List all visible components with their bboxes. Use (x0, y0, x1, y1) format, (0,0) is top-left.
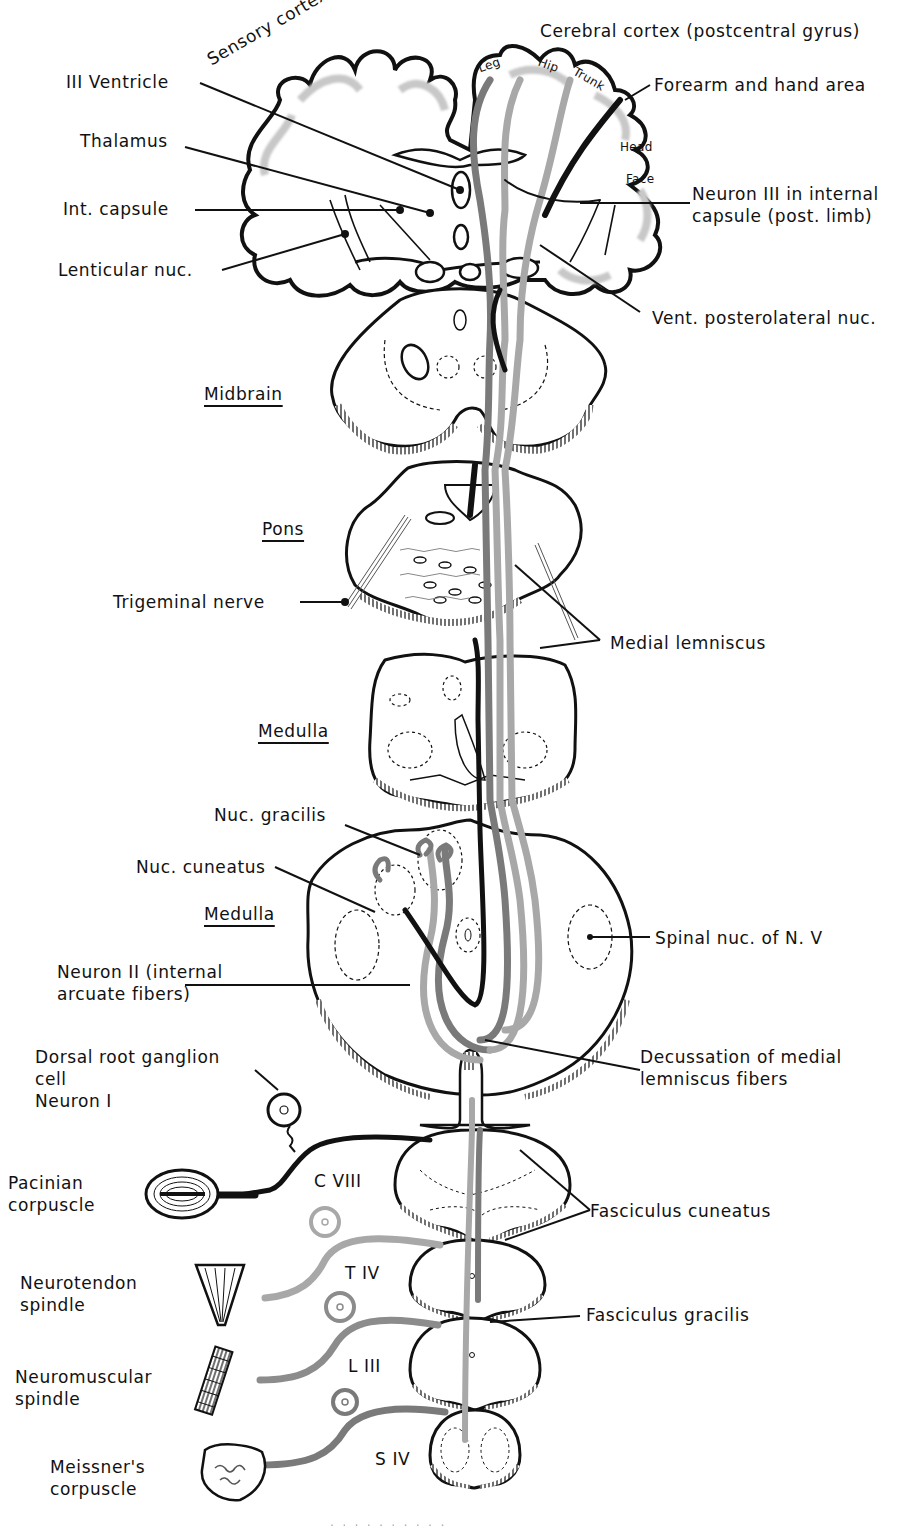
cord-l3 (410, 1318, 540, 1410)
label-medulla-upper: Medulla (258, 720, 329, 742)
cord-s4 (430, 1410, 520, 1488)
label-neuromuscular-spindle: Neuromuscular spindle (15, 1366, 152, 1410)
label-int-capsule: Int. capsule (63, 198, 169, 220)
label-vpl-nuc: Vent. posterolateral nuc. (652, 307, 876, 329)
label-cerebral-cortex: Cerebral cortex (postcentral gyrus) (540, 20, 860, 42)
label-pacinian-corpuscle: Pacinian corpuscle (8, 1172, 95, 1216)
label-meissner-corpuscle: Meissner's corpuscle (50, 1456, 145, 1500)
upper-medulla-section (370, 654, 576, 808)
receptors (146, 1094, 357, 1500)
caption-fragment: · · · · · · · · · · (330, 1518, 447, 1530)
label-neurotendon-spindle: Neurotendon spindle (20, 1272, 137, 1316)
cord-c8 (395, 1130, 570, 1245)
label-level-c8: C VIII (314, 1170, 362, 1192)
label-medial-lemniscus: Medial lemniscus (610, 632, 766, 654)
pons-section (345, 462, 581, 641)
label-drg-cell: Dorsal root ganglion cell Neuron I (35, 1046, 220, 1112)
label-nuc-gracilis: Nuc. gracilis (214, 804, 326, 826)
label-fasciculus-gracilis: Fasciculus gracilis (586, 1304, 749, 1326)
label-forearm-hand-area: Forearm and hand area (654, 74, 866, 96)
label-level-t4: T IV (345, 1262, 380, 1284)
pacinian-corpuscle-shape (146, 1170, 218, 1218)
cortex-area-face: Face (626, 172, 654, 186)
midbrain-section (332, 289, 606, 451)
label-pons: Pons (262, 518, 304, 540)
label-trigeminal-nerve: Trigeminal nerve (113, 591, 265, 613)
label-spinal-nuc-v: Spinal nuc. of N. V (655, 927, 823, 949)
label-midbrain: Midbrain (204, 383, 283, 405)
cortex-area-head: Head (620, 140, 653, 154)
label-medulla-lower: Medulla (204, 903, 275, 925)
label-neuron-iii: Neuron III in internal capsule (post. li… (692, 183, 879, 227)
lower-medulla-section (308, 820, 632, 1128)
label-neuron-ii: Neuron II (internal arcuate fibers) (57, 961, 223, 1005)
label-thalamus: Thalamus (80, 130, 168, 152)
pathway-diagram (0, 0, 922, 1530)
label-fasciculus-cuneatus: Fasciculus cuneatus (590, 1200, 771, 1222)
label-third-ventricle: III Ventricle (66, 71, 169, 93)
label-nuc-cuneatus: Nuc. cuneatus (136, 856, 266, 878)
label-decussation: Decussation of medial lemniscus fibers (640, 1046, 842, 1090)
spinal-cord-segments (395, 1130, 570, 1488)
label-level-l3: L III (348, 1355, 381, 1377)
label-lenticular-nuc: Lenticular nuc. (58, 259, 193, 281)
label-level-s4: S IV (375, 1448, 410, 1470)
